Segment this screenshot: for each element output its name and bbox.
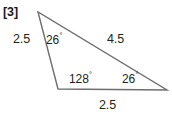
- triangle-diagram: [0, 0, 172, 124]
- degree-symbol-icon: °: [59, 31, 62, 40]
- figure-index-label: [3]: [3, 6, 18, 19]
- angle-top-value: 26: [46, 33, 59, 47]
- side-length-right-label: 4.5: [107, 33, 124, 46]
- triangle-outline: [38, 12, 167, 90]
- angle-bottom-right-value: 26: [122, 72, 135, 86]
- angle-bottom-left-value: 128: [69, 72, 89, 86]
- figure-canvas: [3] 2.5 26° 4.5 128° 26° 2.5: [0, 0, 172, 124]
- side-length-left-label: 2.5: [13, 33, 30, 46]
- angle-bottom-right-label: 26°: [122, 72, 138, 85]
- angle-bottom-left-label: 128°: [69, 72, 92, 85]
- side-length-bottom-label: 2.5: [99, 99, 116, 112]
- degree-symbol-icon: °: [135, 70, 138, 79]
- degree-symbol-icon: °: [89, 70, 92, 79]
- angle-top-label: 26°: [46, 33, 62, 46]
